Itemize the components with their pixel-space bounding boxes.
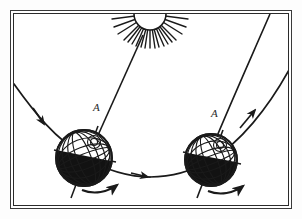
sun-icon: [100, 0, 200, 48]
label-A-left: A: [93, 102, 100, 113]
earth-position-2: [180, 128, 243, 198]
orbit-path: [14, 70, 289, 177]
orbit-arrow-right: [240, 110, 255, 128]
diagram-canvas: [0, 0, 302, 219]
rotation-direction-arrow-2: [208, 186, 243, 193]
orbit-arrow-left: [33, 108, 44, 124]
label-A-right: A: [211, 108, 218, 119]
earth-position-1: [50, 123, 118, 198]
astronomy-diagram-figure: A A: [0, 0, 302, 219]
